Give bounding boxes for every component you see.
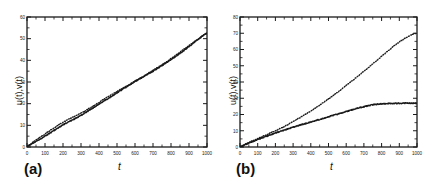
svg-text:300: 300 xyxy=(289,151,297,156)
svg-text:200: 200 xyxy=(59,151,67,156)
y-axis-title-b: u(t),v(t) xyxy=(228,76,238,105)
svg-text:10: 10 xyxy=(233,129,239,134)
svg-text:500: 500 xyxy=(325,151,333,156)
svg-text:600: 600 xyxy=(131,151,139,156)
svg-text:60: 60 xyxy=(233,47,239,52)
svg-text:10: 10 xyxy=(20,123,26,128)
curve-u(t) xyxy=(27,33,207,146)
svg-text:800: 800 xyxy=(167,151,175,156)
svg-text:500: 500 xyxy=(113,151,121,156)
svg-text:900: 900 xyxy=(395,151,403,156)
svg-text:600: 600 xyxy=(342,151,350,156)
curve-u(t) xyxy=(240,103,417,147)
panel-label-b: (b) xyxy=(236,160,255,177)
svg-text:50: 50 xyxy=(233,64,239,69)
svg-text:40: 40 xyxy=(20,58,26,63)
panel-a: 0100200300400500600700800900100001020304… xyxy=(0,0,216,184)
svg-text:800: 800 xyxy=(378,151,386,156)
svg-text:0: 0 xyxy=(235,145,238,150)
panel-label-a: (a) xyxy=(24,160,42,177)
curve-v(t) xyxy=(27,34,207,147)
svg-text:1000: 1000 xyxy=(202,151,213,156)
svg-text:70: 70 xyxy=(233,31,239,36)
svg-text:400: 400 xyxy=(95,151,103,156)
svg-text:100: 100 xyxy=(254,151,262,156)
svg-text:0: 0 xyxy=(239,151,242,156)
svg-text:100: 100 xyxy=(41,151,49,156)
svg-text:200: 200 xyxy=(272,151,280,156)
svg-text:0: 0 xyxy=(26,151,29,156)
svg-text:20: 20 xyxy=(233,112,239,117)
plot-a: 0100200300400500600700800900100001020304… xyxy=(0,0,216,184)
x-axis-title-b: t xyxy=(330,161,333,172)
x-axis-title-a: t xyxy=(118,161,121,172)
svg-text:60: 60 xyxy=(20,15,26,20)
svg-text:700: 700 xyxy=(360,151,368,156)
svg-text:1000: 1000 xyxy=(412,151,423,156)
svg-text:400: 400 xyxy=(307,151,315,156)
svg-text:300: 300 xyxy=(77,151,85,156)
panel-b: 0100200300400500600700800900100001020304… xyxy=(216,0,433,184)
svg-text:50: 50 xyxy=(20,36,26,41)
plot-b: 0100200300400500600700800900100001020304… xyxy=(216,0,433,184)
curve-v(t) xyxy=(240,33,417,147)
figure-container: 0100200300400500600700800900100001020304… xyxy=(0,0,433,184)
svg-text:80: 80 xyxy=(233,15,239,20)
svg-text:0: 0 xyxy=(22,145,25,150)
y-axis-title-a: u(t),v(t) xyxy=(14,76,24,105)
svg-text:700: 700 xyxy=(149,151,157,156)
svg-text:900: 900 xyxy=(185,151,193,156)
